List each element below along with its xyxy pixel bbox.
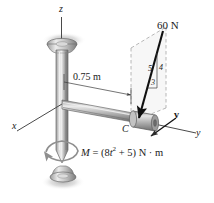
axis-label-y: y bbox=[196, 128, 200, 138]
velocity-label-v: v bbox=[174, 110, 179, 120]
mechanics-figure: z x y 60 N 0.75 m C v 5 4 3 M = (8t2 + 5… bbox=[0, 0, 214, 203]
moment-symbol: M bbox=[81, 147, 90, 158]
dimension-label: 0.75 m bbox=[73, 72, 101, 82]
horizontal-arm bbox=[62, 100, 133, 122]
bottom-bearing bbox=[50, 166, 76, 182]
collar-at-c bbox=[129, 111, 158, 131]
slope-label-horizontal: 3 bbox=[151, 79, 155, 87]
figure-graphics bbox=[0, 0, 214, 203]
moment-units: N · m bbox=[139, 147, 164, 158]
axis-label-z: z bbox=[59, 4, 63, 14]
moment-equals-sign: = bbox=[92, 147, 98, 158]
point-label-c: C bbox=[122, 124, 129, 134]
x-axis-line bbox=[17, 104, 62, 131]
slope-label-hypotenuse: 5 bbox=[148, 65, 152, 73]
slope-label-vertical: 4 bbox=[159, 64, 163, 72]
moment-open-paren: (8 bbox=[101, 147, 110, 158]
moment-equation: M = (8t2 + 5) N · m bbox=[81, 146, 163, 158]
force-label-60n: 60 N bbox=[157, 20, 179, 31]
moment-remainder: + 5) bbox=[116, 147, 136, 158]
axis-label-x: x bbox=[12, 121, 16, 131]
